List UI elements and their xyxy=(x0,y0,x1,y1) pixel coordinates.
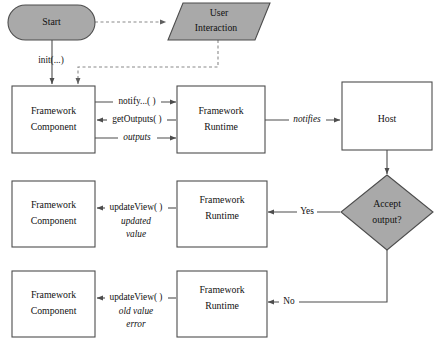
edge-label-value: value xyxy=(126,229,146,239)
component-3-shape xyxy=(12,271,95,337)
runtime-1-shape xyxy=(177,86,265,153)
edge-label-no: No xyxy=(283,296,295,306)
node-framework-component-1: Framework Component xyxy=(12,86,95,153)
edge-label-notify: notify...( ) xyxy=(118,96,155,107)
component-2-shape xyxy=(12,181,95,247)
decision-label-line2: output? xyxy=(372,214,401,225)
node-framework-runtime-3: Framework Runtime xyxy=(177,271,267,337)
edge-user-interaction-to-component xyxy=(78,40,218,84)
component-1-shape xyxy=(12,86,95,153)
component-1-label-line2: Component xyxy=(31,121,77,132)
runtime-1-label-line1: Framework xyxy=(198,105,243,116)
component-3-label-line2: Component xyxy=(31,305,77,316)
node-start: Start xyxy=(8,5,95,40)
edge-label-update-view-3: updateView( ) xyxy=(110,292,163,303)
node-framework-runtime-2: Framework Runtime xyxy=(177,181,267,247)
edge-label-init: init(...) xyxy=(38,55,64,66)
node-host: Host xyxy=(342,82,432,150)
edge-label-error: error xyxy=(126,319,146,329)
component-2-label-line2: Component xyxy=(31,215,77,226)
edge-label-get-outputs: getOutputs( ) xyxy=(112,114,161,125)
user-interaction-label-line1: User xyxy=(210,7,229,18)
node-framework-component-3: Framework Component xyxy=(12,271,95,337)
decision-shape xyxy=(341,175,433,250)
edge-label-yes: Yes xyxy=(300,206,314,216)
flowchart-canvas: Start User Interaction Framework Compone… xyxy=(0,0,434,347)
edge-label-notifies: notifies xyxy=(293,114,321,124)
runtime-3-label-line1: Framework xyxy=(199,284,244,295)
edge-label-update-view-2: updateView( ) xyxy=(110,202,163,213)
node-framework-runtime-1: Framework Runtime xyxy=(177,86,265,153)
node-decision-accept-output: Accept output? xyxy=(341,175,433,250)
component-2-label-line1: Framework xyxy=(31,199,76,210)
component-3-label-line1: Framework xyxy=(31,289,76,300)
edge-label-updated: updated xyxy=(121,216,151,226)
runtime-2-label-line1: Framework xyxy=(199,194,244,205)
edge-label-outputs: outputs xyxy=(123,132,151,142)
user-interaction-label-line2: Interaction xyxy=(195,22,238,33)
runtime-1-label-line2: Runtime xyxy=(204,121,238,132)
component-1-label-line1: Framework xyxy=(31,105,76,116)
host-label: Host xyxy=(378,113,397,124)
start-label: Start xyxy=(42,16,61,27)
edge-no xyxy=(268,250,387,302)
flowchart-diagram: Start User Interaction Framework Compone… xyxy=(0,0,434,347)
node-user-interaction: User Interaction xyxy=(168,3,270,40)
decision-label-line1: Accept xyxy=(373,198,401,209)
runtime-2-label-line2: Runtime xyxy=(205,210,239,221)
runtime-3-label-line2: Runtime xyxy=(205,300,239,311)
node-framework-component-2: Framework Component xyxy=(12,181,95,247)
edge-label-old-value: old value xyxy=(119,306,153,316)
